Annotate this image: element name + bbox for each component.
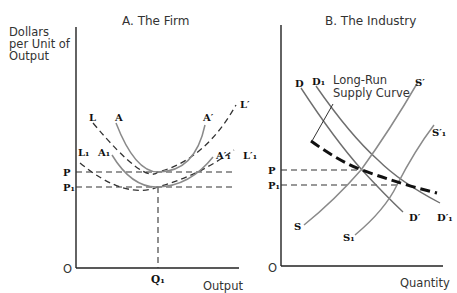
firm-origin-label: O <box>63 262 72 276</box>
label-S1: S₁ <box>343 232 355 243</box>
curve-SS-prime <box>304 82 418 225</box>
firm-x-axis-label: Output <box>203 279 243 293</box>
label-L1-prime: L′₁ <box>243 150 257 161</box>
panel-b-title: B. The Industry <box>325 14 416 28</box>
panel-a-title: A. The Firm <box>122 14 190 28</box>
firm-q1-label: Q₁ <box>151 273 165 286</box>
label-S-prime: S′ <box>415 77 425 88</box>
label-S1-prime: S′₁ <box>432 127 446 138</box>
curve-DD-prime <box>301 88 403 212</box>
label-A1-prime: A′₁ <box>215 150 231 161</box>
industry-x-axis-label: Quantity <box>400 276 450 290</box>
industry-price-p1: P₁ <box>268 180 280 191</box>
panel-firm: A. The Firm Dollars per Unit of Output O… <box>9 14 257 293</box>
label-A: A <box>114 112 123 123</box>
label-D: D <box>295 78 304 89</box>
economics-figure: A. The Firm Dollars per Unit of Output O… <box>0 0 457 293</box>
label-A1: A₁ <box>97 147 110 158</box>
label-D-prime: D′ <box>409 212 421 223</box>
label-L-prime: L′ <box>240 99 250 110</box>
curve-AA-prime <box>116 123 205 172</box>
label-A-prime: A′ <box>202 112 214 123</box>
industry-origin-label: O <box>268 261 277 275</box>
label-L1: L₁ <box>78 147 89 158</box>
annotation-line2: Supply Curve <box>333 86 410 100</box>
label-L: L <box>89 112 96 123</box>
label-D1-prime: D′₁ <box>437 212 453 223</box>
label-S: S <box>294 221 301 232</box>
annotation-line1: Long-Run <box>333 73 387 87</box>
firm-price-p: P <box>63 167 71 178</box>
y-axis-label-line3: Output <box>9 49 49 63</box>
industry-price-p: P <box>268 165 276 176</box>
label-D1: D₁ <box>312 76 325 87</box>
firm-price-p1: P₁ <box>63 182 75 193</box>
panel-industry: B. The Industry O Quantity P P₁ Long-Run… <box>268 14 453 290</box>
